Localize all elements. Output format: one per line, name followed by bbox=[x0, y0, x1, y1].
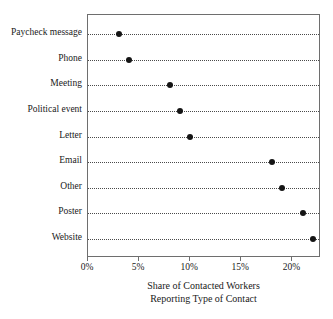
x-axis-tick-mark bbox=[138, 257, 139, 261]
chart-figure: Paycheck messagePhoneMeetingPolitical ev… bbox=[0, 0, 333, 319]
y-axis-label: Email bbox=[0, 155, 82, 165]
x-axis-tick-label: 0% bbox=[67, 262, 107, 273]
y-axis-label: Meeting bbox=[0, 78, 82, 88]
y-axis-label: Poster bbox=[0, 206, 82, 216]
leader-line bbox=[88, 239, 319, 240]
data-point bbox=[167, 82, 173, 88]
plot-area bbox=[87, 14, 320, 257]
x-axis-tick-label: 20% bbox=[271, 262, 311, 273]
leader-line bbox=[88, 162, 319, 163]
x-axis-tick-mark bbox=[87, 257, 88, 261]
leader-line bbox=[88, 213, 319, 214]
data-point bbox=[279, 185, 285, 191]
leader-line bbox=[88, 111, 319, 112]
y-axis-label: Other bbox=[0, 181, 82, 191]
data-point bbox=[177, 108, 183, 114]
y-axis-label: Website bbox=[0, 232, 82, 242]
y-axis-label: Letter bbox=[0, 130, 82, 140]
x-axis-title-line-2: Reporting Type of Contact bbox=[87, 292, 320, 305]
y-axis-label: Political event bbox=[0, 104, 82, 114]
data-point bbox=[187, 134, 193, 140]
x-axis-title: Share of Contacted Workers Reporting Typ… bbox=[87, 279, 320, 305]
x-axis-tick-label: 15% bbox=[220, 262, 260, 273]
data-point bbox=[116, 31, 122, 37]
data-point bbox=[269, 159, 275, 165]
x-axis-tick-label: 5% bbox=[118, 262, 158, 273]
x-axis-tick-mark bbox=[291, 257, 292, 261]
data-point bbox=[126, 57, 132, 63]
data-point bbox=[300, 210, 306, 216]
x-axis-tick-mark bbox=[240, 257, 241, 261]
leader-line bbox=[88, 137, 319, 138]
leader-line bbox=[88, 85, 319, 86]
x-axis-tick-label: 10% bbox=[169, 262, 209, 273]
x-axis-tick-mark bbox=[189, 257, 190, 261]
x-axis-title-line-1: Share of Contacted Workers bbox=[87, 279, 320, 292]
y-axis-label: Paycheck message bbox=[0, 27, 82, 37]
y-axis-label: Phone bbox=[0, 53, 82, 63]
data-point bbox=[310, 236, 316, 242]
leader-line bbox=[88, 34, 319, 35]
leader-line bbox=[88, 60, 319, 61]
